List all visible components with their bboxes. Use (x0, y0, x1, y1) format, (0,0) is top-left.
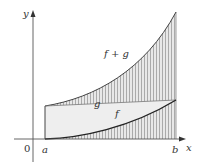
tick-label-b: b (172, 144, 178, 155)
x-axis-label: x (186, 142, 192, 153)
y-axis-arrow-icon (31, 10, 36, 17)
origin-label: 0 (24, 143, 30, 154)
label-f-plus-g: f + g (103, 48, 129, 59)
tick-label-a: a (42, 144, 48, 155)
area-diagram: y x 0 a b f + g g f (0, 0, 199, 168)
y-axis-label: y (22, 8, 29, 19)
label-g: g (94, 98, 100, 109)
x-axis-arrow-icon (179, 137, 186, 142)
region-above-g (45, 12, 176, 106)
